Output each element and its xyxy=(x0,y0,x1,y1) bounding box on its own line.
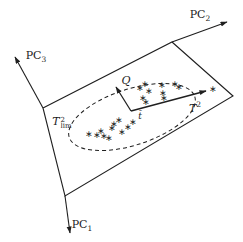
q-residual-label: Q xyxy=(121,75,130,86)
diagram-canvas: ∗∗∗∗∗∗∗∗∗∗∗∗∗∗∗∗∗∗∗∗∗∗ xyxy=(0,0,243,242)
t2lim-subscript: lim xyxy=(61,123,72,129)
outlier-point-marker: ∗ xyxy=(209,84,217,94)
pc2-axis-label: PC2 xyxy=(190,9,211,20)
tbar-center-label: t̄ xyxy=(138,112,142,121)
t2lim-supsub: 2lim xyxy=(61,117,72,130)
data-point-marker: ∗ xyxy=(85,129,93,139)
data-point-marker: ∗ xyxy=(129,117,137,127)
q-vector xyxy=(116,87,131,111)
pc1-axis xyxy=(65,196,70,233)
tbar-label-text: t̄ xyxy=(138,111,142,121)
data-point-marker: ∗ xyxy=(160,93,168,103)
t2-statistic-label: T2 xyxy=(189,103,201,114)
pc1-label-subscript: 1 xyxy=(88,224,93,233)
t2-label-superscript: 2 xyxy=(196,100,201,109)
q-label-text: Q xyxy=(121,74,130,87)
pc1-label-text: PC xyxy=(72,218,88,231)
data-point-marker: ∗ xyxy=(115,115,123,125)
pc3-axis-label: PC3 xyxy=(26,50,47,61)
t2-limit-label: T2lim xyxy=(52,116,71,129)
data-point-marker: ∗ xyxy=(105,133,113,143)
data-point-marker: ∗ xyxy=(145,86,153,96)
pc3-label-subscript: 3 xyxy=(42,55,47,64)
data-point-marker: ∗ xyxy=(142,97,150,107)
pc2-axis xyxy=(172,22,227,42)
pc3-label-text: PC xyxy=(26,49,42,62)
data-point-marker: ∗ xyxy=(175,82,183,92)
pc2-label-text: PC xyxy=(190,8,206,21)
pc3-axis xyxy=(15,57,43,108)
pc2-label-subscript: 2 xyxy=(206,14,211,23)
pc1-axis-label: PC1 xyxy=(72,219,93,230)
pca-diagram: ∗∗∗∗∗∗∗∗∗∗∗∗∗∗∗∗∗∗∗∗∗∗ PC3 PC2 PC1 Q T2 … xyxy=(0,0,243,242)
t2lim-label-text: T xyxy=(52,115,59,128)
